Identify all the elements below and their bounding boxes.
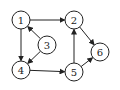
edge-5-to-6: [81, 58, 92, 67]
directed-graph: 123456: [0, 0, 120, 90]
node-label: 4: [18, 65, 24, 76]
node-label: 1: [18, 15, 24, 26]
edge-4-to-5: [30, 70, 65, 71]
node-label: 2: [71, 15, 77, 26]
node-6: 6: [91, 43, 109, 61]
node-label: 3: [44, 40, 50, 51]
node-label: 5: [71, 67, 77, 78]
edge-2-to-6: [80, 27, 94, 45]
node-5: 5: [65, 63, 83, 81]
node-2: 2: [65, 11, 83, 29]
edge-3-to-1: [28, 27, 41, 39]
nodes-layer: 123456: [12, 11, 109, 81]
node-4: 4: [12, 61, 30, 79]
node-1: 1: [12, 11, 30, 29]
edges-layer: [21, 20, 94, 72]
node-3: 3: [38, 36, 56, 54]
edge-3-to-4: [28, 51, 41, 63]
node-label: 6: [97, 47, 103, 58]
